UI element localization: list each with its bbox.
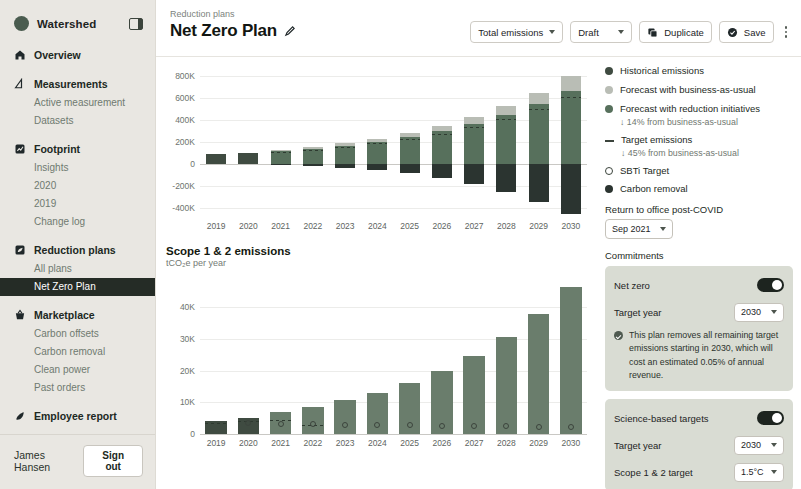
breadcrumb-and-title: Reduction plans Net Zero Plan [170, 9, 470, 41]
net-zero-target-year-value: 2030 [741, 307, 761, 317]
bar [496, 337, 517, 434]
total-emissions-chart: 800K600K400K200K0-200K-400K2019202020212… [156, 57, 595, 239]
bar-segment-reduction-initiatives [367, 142, 387, 164]
sbt-target-year-label: Target year [614, 440, 662, 451]
status-select[interactable]: Draft [570, 21, 632, 43]
legend-swatch-dot-icon [605, 105, 613, 113]
sbt-toggle[interactable] [757, 411, 784, 425]
sidebar-item-employee-report[interactable]: Employee report [0, 406, 155, 426]
target-emissions-line [496, 119, 516, 120]
bar-segment-carbon-removal [496, 164, 516, 192]
net-zero-target-year-select[interactable]: 2030 [734, 303, 784, 322]
scope-chart-subtitle: tCO₂e per year [156, 258, 587, 268]
sbti-target-marker [503, 423, 509, 429]
bar-segment-business-as-usual [496, 106, 516, 115]
sidebar-subitem-past-orders[interactable]: Past orders [0, 379, 155, 397]
x-axis-tick: 2026 [432, 221, 451, 231]
sidebar-subitem-carbon-removal[interactable]: Carbon removal [0, 343, 155, 361]
sidebar-group-measurements: MeasurementsActive measurementDatasets [0, 74, 155, 130]
sidebar-subitem-2020[interactable]: 2020 [0, 177, 155, 195]
x-axis-tick: 2029 [529, 438, 548, 448]
kebab-icon[interactable] [781, 26, 792, 38]
return-to-office-label: Return to office post-COVID [605, 204, 793, 215]
sidebar-item-footprint[interactable]: Footprint [0, 139, 155, 159]
sign-out-button[interactable]: Sign out [83, 445, 143, 477]
x-axis-tick: 2021 [271, 438, 290, 448]
return-to-office-select[interactable]: Sep 2021 [605, 219, 673, 239]
x-axis-tick: 2027 [465, 221, 484, 231]
save-button[interactable]: Save [719, 21, 774, 43]
metric-select[interactable]: Total emissions [470, 21, 563, 43]
sbti-target-marker [278, 421, 284, 427]
target-emissions-line [271, 152, 291, 153]
brand-row: Watershed [0, 16, 155, 31]
legend-swatch-hollow-icon [605, 167, 613, 175]
sbt-target-year-select[interactable]: 2030 [734, 436, 784, 455]
legend-swatch-dot-icon [605, 86, 613, 94]
x-axis-tick: 2028 [497, 438, 516, 448]
science-based-targets-card: Science-based targets Target year 2030 S… [605, 399, 793, 489]
sidebar-item-label: Marketplace [34, 309, 95, 321]
status-select-value: Draft [578, 27, 599, 38]
x-axis-tick: 2030 [561, 438, 580, 448]
sbt-scope-label: Scope 1 & 2 target [614, 467, 693, 478]
sidebar-subitem-carbon-offsets[interactable]: Carbon offsets [0, 325, 155, 343]
return-to-office-value: Sep 2021 [612, 224, 651, 234]
bar-segment-historical [238, 153, 258, 164]
y-axis-tick: 20K [180, 366, 195, 376]
sidebar-group-employee-report: Employee report [0, 406, 155, 426]
y-axis-tick: 30K [180, 334, 195, 344]
net-zero-toggle[interactable] [757, 278, 784, 292]
y-axis-tick: -200K [172, 181, 195, 191]
sidebar-subitem-net-zero-plan[interactable]: Net Zero Plan [0, 278, 155, 296]
user-name: James Hansen [14, 449, 83, 473]
charts-column: 800K600K400K200K0-200K-400K2019202020212… [156, 57, 595, 489]
sidebar-subitem-active-measurement[interactable]: Active measurement [0, 94, 155, 112]
bar-segment-carbon-removal [271, 164, 291, 165]
check-circle-icon [727, 27, 738, 38]
chart-icon [14, 143, 26, 155]
sidebar-subitem-insights[interactable]: Insights [0, 159, 155, 177]
target-emissions-line [303, 150, 323, 151]
sidebar-subitem-datasets[interactable]: Datasets [0, 112, 155, 130]
y-axis-tick: 800K [175, 71, 195, 81]
sbti-target-marker [568, 424, 574, 430]
side-panel: Historical emissionsForecast with busine… [595, 57, 801, 489]
bar [560, 287, 581, 434]
target-emissions-line [205, 423, 226, 424]
pencil-icon[interactable] [284, 25, 296, 37]
bar-group [271, 65, 291, 217]
sidebar-subitem-change-log[interactable]: Change log [0, 213, 155, 231]
sbti-target-marker [439, 423, 445, 429]
top-bar: Reduction plans Net Zero Plan Total emis… [156, 0, 801, 57]
breadcrumb[interactable]: Reduction plans [170, 9, 470, 19]
total-emissions-plot: 800K600K400K200K0-200K-400K2019202020212… [200, 65, 587, 217]
bar-group [335, 65, 355, 217]
scope-1-2-chart: Scope 1 & 2 emissions tCO₂e per year 40K… [156, 239, 595, 489]
chevron-down-icon [771, 443, 777, 447]
duplicate-button[interactable]: Duplicate [639, 21, 712, 43]
sidebar-item-marketplace[interactable]: Marketplace [0, 305, 155, 325]
panel-collapse-icon[interactable] [129, 18, 143, 30]
sidebar-item-reduction-plans[interactable]: Reduction plans [0, 240, 155, 260]
sidebar-item-label: Overview [34, 49, 81, 61]
sidebar-subitem-clean-power[interactable]: Clean power [0, 361, 155, 379]
bar-group [529, 65, 549, 217]
y-axis-tick: 600K [175, 93, 195, 103]
sbt-scope-select[interactable]: 1.5°C [734, 463, 784, 482]
sidebar-item-measurements[interactable]: Measurements [0, 74, 155, 94]
sidebar-subitem-all-plans[interactable]: All plans [0, 260, 155, 278]
sidebar-item-overview[interactable]: Overview [0, 45, 155, 65]
content: 800K600K400K200K0-200K-400K2019202020212… [156, 57, 801, 489]
y-axis-tick: 40K [180, 302, 195, 312]
app-root: Watershed OverviewMeasurementsActive mea… [0, 0, 801, 489]
metric-select-value: Total emissions [478, 27, 543, 38]
bar-segment-carbon-removal [367, 164, 387, 170]
net-zero-note-text: This plan removes all remaining target e… [629, 329, 784, 382]
sbt-toggle-row: Science-based targets [614, 408, 784, 428]
sidebar-item-label: Footprint [34, 143, 80, 155]
target-emissions-line [464, 127, 484, 128]
sidebar-subitem-2019[interactable]: 2019 [0, 195, 155, 213]
y-axis-tick: 10K [180, 397, 195, 407]
bar-group [464, 65, 484, 217]
